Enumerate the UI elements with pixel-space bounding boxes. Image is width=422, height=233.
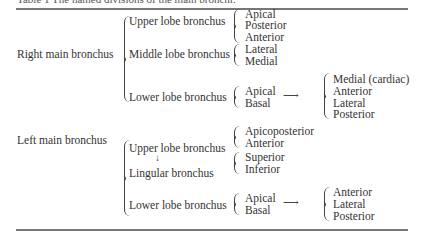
left-lower-segment: Apical	[245, 192, 276, 204]
top-rule	[16, 8, 408, 10]
right-upper-segment: Posterior	[245, 19, 287, 31]
right-arrow-icon: ⟶	[283, 89, 299, 102]
right-basal-segment: Medial (cardiac)	[333, 73, 409, 85]
right-lower-segment: Basal	[245, 97, 271, 109]
right-basal-brace	[324, 73, 331, 119]
left-main-bronchus-label: Left main bronchus	[17, 134, 107, 146]
left-lower-brace	[234, 193, 241, 215]
down-arrow-icon: ↓	[155, 152, 160, 163]
lingular-segment: Superior	[245, 151, 285, 163]
right-middle-lobe-label: Middle lobe bronchus	[129, 48, 230, 60]
right-middle-segment: Lateral	[245, 43, 278, 55]
right-basal-segment: Posterior	[333, 108, 375, 120]
left-basal-segment: Anterior	[333, 186, 372, 198]
left-basal-brace	[324, 187, 331, 221]
left-basal-segment: Posterior	[333, 210, 375, 222]
left-basal-segment: Lateral	[333, 198, 366, 210]
right-lower-brace	[234, 86, 241, 108]
left-upper-lobe-label: Upper lobe bronchus	[129, 142, 225, 154]
lingular-brace	[234, 152, 241, 174]
right-upper-brace	[234, 9, 241, 43]
left-arrow-icon: ⟶	[283, 196, 299, 209]
lingular-segment: Inferior	[245, 163, 280, 175]
right-upper-segment: Anterior	[245, 31, 284, 43]
right-lower-lobe-label: Lower lobe bronchus	[129, 91, 227, 103]
left-upper-segment: Apicoposterior	[245, 125, 314, 137]
right-main-bronchus-label: Right main bronchus	[17, 48, 113, 60]
left-upper-brace	[234, 126, 241, 148]
lingular-bronchus-label: Lingular bronchus	[129, 167, 214, 179]
right-middle-brace	[234, 44, 241, 66]
right-lower-segment: Apical	[245, 85, 276, 97]
bottom-rule	[16, 229, 408, 231]
right-basal-segment: Anterior	[333, 85, 372, 97]
right-upper-lobe-label: Upper lobe bronchus	[129, 15, 225, 27]
left-lower-segment: Basal	[245, 204, 271, 216]
table-caption: Table 1 The named divisions of the main …	[17, 0, 236, 5]
left-lower-lobe-label: Lower lobe bronchus	[129, 199, 227, 211]
left-upper-segment: Anterior	[245, 137, 284, 149]
right-middle-segment: Medial	[245, 55, 278, 67]
